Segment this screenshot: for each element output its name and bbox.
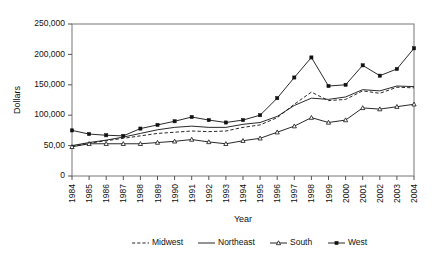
- y-tick-label: 150,000: [34, 79, 65, 89]
- chart-canvas: 050,00100,000150,000200,000250,000198419…: [0, 0, 432, 260]
- data-point: [121, 142, 125, 146]
- data-point: [395, 104, 399, 108]
- x-tick-label: 1986: [101, 184, 111, 203]
- x-tick-label: 1991: [187, 184, 197, 203]
- x-tick-label: 1998: [306, 184, 316, 203]
- legend-label: West: [348, 237, 368, 247]
- data-point: [412, 102, 416, 106]
- data-point: [344, 83, 347, 86]
- data-point: [361, 64, 364, 67]
- data-point: [395, 67, 398, 70]
- x-tick-label: 2001: [358, 184, 368, 203]
- data-point: [335, 241, 338, 244]
- data-point: [276, 241, 280, 245]
- series-path: [72, 48, 414, 136]
- data-point: [224, 142, 228, 146]
- legend-item-northeast[interactable]: Northeast: [198, 237, 255, 247]
- data-point: [241, 118, 244, 121]
- data-point: [104, 142, 108, 146]
- y-tick-label: 100,000: [34, 109, 65, 119]
- x-tick-label: 1992: [204, 184, 214, 203]
- data-point: [292, 124, 296, 128]
- legend-label: Northeast: [218, 237, 255, 247]
- data-point: [378, 74, 381, 77]
- data-point: [310, 56, 313, 59]
- x-tick-label: 1987: [118, 184, 128, 203]
- data-point: [207, 118, 210, 121]
- x-tick-label: 1989: [153, 184, 163, 203]
- legend-label: Midwest: [152, 237, 184, 247]
- series-west: [70, 47, 415, 138]
- x-tick-label: 1999: [324, 184, 334, 203]
- data-point: [173, 139, 177, 143]
- x-axis-title: Year: [234, 214, 252, 224]
- x-tick-label: 1985: [84, 184, 94, 203]
- data-point: [155, 140, 159, 144]
- legend-label: South: [290, 237, 312, 247]
- data-point: [173, 120, 176, 123]
- x-tick-label: 2002: [375, 184, 385, 203]
- x-tick-label: 1993: [221, 184, 231, 203]
- x-tick-label: 2000: [341, 184, 351, 203]
- x-tick-label: 1988: [135, 184, 145, 203]
- data-point: [105, 134, 108, 137]
- data-point: [293, 76, 296, 79]
- data-point: [156, 123, 159, 126]
- y-tick-label: 250,000: [34, 18, 65, 28]
- legend-item-south[interactable]: South: [270, 237, 312, 247]
- series-south: [70, 102, 416, 148]
- data-point: [241, 139, 245, 143]
- y-axis-title: Dollars: [12, 86, 22, 115]
- data-point: [258, 136, 262, 140]
- data-point: [276, 97, 279, 100]
- data-point: [344, 118, 348, 122]
- data-point: [88, 132, 91, 135]
- data-point: [139, 127, 142, 130]
- x-tick-label: 1996: [272, 184, 282, 203]
- x-tick-label: 1995: [255, 184, 265, 203]
- data-point: [361, 106, 365, 110]
- x-tick-label: 2003: [392, 184, 402, 203]
- data-point: [138, 142, 142, 146]
- x-tick-label: 1990: [170, 184, 180, 203]
- chart-legend: MidwestNortheastSouthWest: [132, 237, 368, 247]
- data-point: [259, 114, 262, 117]
- data-point: [224, 121, 227, 124]
- x-tick-label: 1984: [67, 184, 77, 203]
- legend-item-midwest[interactable]: Midwest: [132, 237, 184, 247]
- data-point: [207, 140, 211, 144]
- legend-item-west[interactable]: West: [328, 237, 368, 247]
- y-tick-label: 0: [60, 170, 65, 180]
- data-point: [190, 115, 193, 118]
- data-point: [378, 107, 382, 111]
- line-chart: 050,00100,000150,000200,000250,000198419…: [0, 0, 432, 260]
- data-point: [275, 130, 279, 134]
- data-point: [190, 137, 194, 141]
- y-tick-label: 200,000: [34, 49, 65, 59]
- data-point: [326, 120, 330, 124]
- x-tick-label: 1994: [238, 184, 248, 203]
- data-point: [327, 84, 330, 87]
- data-point: [309, 115, 313, 119]
- plot-frame: [72, 24, 414, 176]
- data-point: [412, 47, 415, 50]
- x-tick-label: 2004: [409, 184, 419, 203]
- data-point: [70, 129, 73, 132]
- x-tick-label: 1997: [289, 184, 299, 203]
- data-point: [122, 134, 125, 137]
- y-tick-label: 50,00: [44, 140, 66, 150]
